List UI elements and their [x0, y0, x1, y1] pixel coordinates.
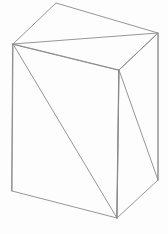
- top-face-outline: [13, 3, 158, 70]
- front-left-face-diagonal: [13, 44, 117, 218]
- top-face-diagonal: [13, 33, 158, 44]
- wireframe-box-figure: [0, 0, 168, 234]
- mid-vertical-edge: [117, 70, 119, 218]
- right-face-diagonal: [119, 70, 158, 180]
- right-face-outline: [117, 33, 158, 218]
- left-vertical-edge: [12, 44, 13, 191]
- diagram-canvas: [0, 0, 168, 234]
